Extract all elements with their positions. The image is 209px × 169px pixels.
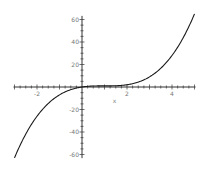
y-tick-label: 20: [71, 61, 79, 68]
function-plot: -224-60-40-20204060 x: [0, 0, 209, 169]
x-axis-label: x: [113, 97, 117, 104]
x-tick-label: -2: [34, 90, 40, 97]
y-tick-label: -60: [69, 151, 79, 158]
curve-line: [15, 14, 195, 158]
y-tick-label: 40: [71, 38, 79, 45]
y-tick-label: -40: [69, 128, 79, 135]
x-tick-label: 2: [125, 90, 129, 97]
y-tick-label: -20: [69, 106, 79, 113]
x-tick-label: 4: [170, 90, 174, 97]
y-tick-label: 60: [71, 16, 79, 23]
